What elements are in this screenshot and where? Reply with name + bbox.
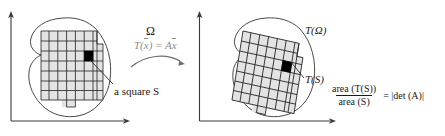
left-panel bbox=[8, 11, 130, 124]
map-label-var2: x bbox=[172, 39, 177, 51]
determinant-area-formula: area (T(S)) area (S) = |det (A)| bbox=[330, 83, 424, 107]
square-s bbox=[84, 51, 93, 61]
map-label-prefix: T( bbox=[134, 39, 144, 51]
area-ratio-denominator: area (S) bbox=[336, 95, 371, 108]
transformation-figure bbox=[0, 0, 445, 136]
omega-grid bbox=[41, 31, 103, 107]
area-ratio-fraction: area (T(S)) area (S) bbox=[330, 83, 378, 107]
square-s-label: a square S bbox=[114, 86, 159, 97]
right-x-axis-arrowhead bbox=[329, 118, 336, 124]
left-x-axis-arrowhead bbox=[123, 118, 130, 124]
omega-grid-fill bbox=[41, 31, 103, 107]
map-label-mid: ) = A bbox=[149, 39, 172, 51]
t-omega-grid bbox=[231, 31, 305, 121]
curved-arrow-path bbox=[131, 56, 180, 67]
t-s-label: T(S) bbox=[305, 74, 324, 85]
area-ratio-numerator: area (T(S)) bbox=[330, 83, 378, 95]
map-label-var: x bbox=[144, 39, 149, 51]
t-omega-label: T(Ω) bbox=[305, 25, 326, 36]
omega-label: Ω bbox=[146, 25, 155, 37]
curved-arrow-head bbox=[176, 59, 185, 66]
transformation-formula-label: T(x) = Ax bbox=[134, 40, 177, 51]
transformation-arrow bbox=[131, 56, 185, 67]
determinant-equals-expression: = |det (A)| bbox=[383, 90, 424, 101]
square-t-s bbox=[281, 61, 291, 73]
